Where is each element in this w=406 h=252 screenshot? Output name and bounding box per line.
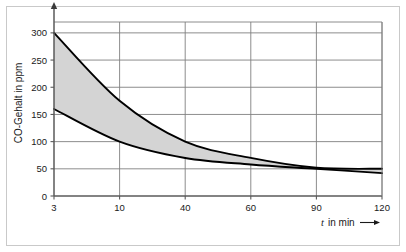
y-axis-title: CO-Gehalt in ppm: [13, 63, 24, 144]
svg-text:t: t: [321, 217, 325, 228]
y-tick-label: 50: [36, 163, 47, 174]
chart-svg: 310406090120 050100150200250300 CO-Gehal…: [0, 0, 406, 252]
x-tick-label: 120: [374, 202, 390, 213]
x-tick-label: 40: [180, 202, 191, 213]
x-tick-labels: 310406090120: [51, 202, 390, 213]
y-tick-label: 0: [42, 191, 47, 202]
y-tick-label: 250: [31, 55, 47, 66]
y-tick-label: 200: [31, 82, 47, 93]
x-tick-label: 10: [114, 202, 125, 213]
screenshot-page: 310406090120 050100150200250300 CO-Gehal…: [0, 0, 406, 252]
svg-text:in min: in min: [328, 217, 355, 228]
y-tick-label: 100: [31, 136, 47, 147]
y-tick-labels: 050100150200250300: [31, 27, 47, 201]
y-tick-label: 300: [31, 27, 47, 38]
y-axis-arrow: [51, 2, 57, 9]
x-tick-label: 60: [246, 202, 257, 213]
y-tick-label: 150: [31, 109, 47, 120]
x-axis-arrow: [374, 220, 380, 225]
x-tick-label: 90: [311, 202, 322, 213]
x-axis-title: tin min: [321, 217, 380, 228]
x-tick-label: 3: [51, 202, 56, 213]
co-decay-chart: 310406090120 050100150200250300 CO-Gehal…: [0, 0, 406, 252]
